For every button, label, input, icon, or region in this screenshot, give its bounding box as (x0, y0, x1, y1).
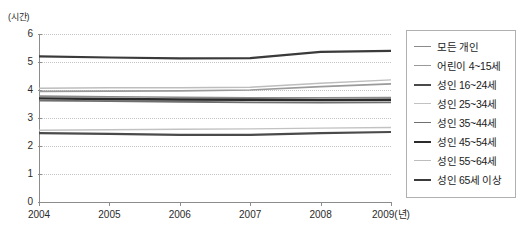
x-tick-label: 2009(년) (356, 209, 426, 220)
legend-item[interactable]: 성인 35~44세 (407, 113, 515, 132)
legend-item-label: 성인 16~24세 (437, 79, 497, 91)
series-line (39, 96, 391, 98)
y-tick-label: 2 (3, 141, 33, 151)
x-tick-label: 2006 (145, 209, 215, 220)
y-tick-label: 4 (3, 85, 33, 95)
legend-line-swatch (414, 65, 431, 66)
y-tick-label: 6 (3, 29, 33, 39)
series-line (39, 80, 391, 88)
legend-item[interactable]: 성인 45~54세 (407, 132, 515, 151)
legend-line-swatch (414, 84, 431, 86)
legend-item-label: 성인 65세 이상 (437, 174, 502, 186)
legend-item-label: 성인 45~54세 (437, 136, 497, 148)
legend-item[interactable]: 성인 16~24세 (407, 75, 515, 94)
x-tick-mark (180, 202, 181, 206)
legend-item-label: 성인 55~64세 (437, 155, 497, 167)
plot-area (39, 34, 391, 202)
y-tick-label: 1 (3, 169, 33, 179)
x-tick-label: 2007 (215, 209, 285, 220)
series-line (39, 51, 391, 59)
x-tick-label: 2004 (4, 209, 74, 220)
y-tick-label: 0 (3, 197, 33, 207)
x-axis-line (39, 202, 391, 203)
x-tick-mark (321, 202, 322, 206)
x-tick-label: 2008 (286, 209, 356, 220)
legend-line-swatch (414, 179, 431, 181)
x-tick-mark (391, 202, 392, 206)
x-tick-label: 2005 (74, 209, 144, 220)
legend-line-swatch (414, 122, 431, 123)
chart-figure: (시간) 6543210 200420052006200720082009(년)… (0, 0, 525, 239)
chart-legend: 모든 개인어린이 4~15세성인 16~24세성인 25~34세성인 35~44… (406, 30, 516, 198)
legend-item[interactable]: 어린이 4~15세 (407, 56, 515, 75)
legend-item-label: 모든 개인 (437, 41, 478, 53)
legend-item[interactable]: 성인 55~64세 (407, 151, 515, 170)
legend-item-label: 성인 25~34세 (437, 98, 497, 110)
x-tick-mark (109, 202, 110, 206)
x-tick-mark (39, 202, 40, 206)
legend-line-swatch (414, 103, 431, 104)
y-tick-label: 5 (3, 57, 33, 67)
legend-line-swatch (414, 141, 431, 143)
series-line (39, 132, 391, 135)
legend-line-swatch (414, 160, 431, 161)
series-line (39, 98, 391, 100)
series-line (39, 128, 391, 131)
legend-item[interactable]: 모든 개인 (407, 37, 515, 56)
legend-line-swatch (414, 46, 431, 47)
y-tick-label: 3 (3, 113, 33, 123)
legend-item[interactable]: 성인 65세 이상 (407, 170, 515, 189)
legend-item[interactable]: 성인 25~34세 (407, 94, 515, 113)
legend-item-label: 어린이 4~15세 (437, 60, 501, 72)
series-lines (39, 34, 391, 202)
x-tick-mark (250, 202, 251, 206)
legend-item-label: 성인 35~44세 (437, 117, 497, 129)
y-axis-unit-label: (시간) (8, 10, 29, 23)
